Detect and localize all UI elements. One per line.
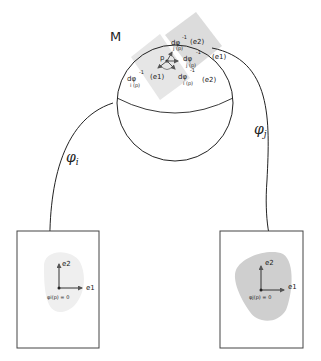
svg-text:j (p): j (p) bbox=[172, 45, 183, 52]
coordinate-charts-diagram: M p dφ -1 j (p) (e2) dφ -1 j (p) (e1) dφ… bbox=[0, 0, 321, 361]
left-origin-label: φi(p) = 0 bbox=[47, 294, 69, 301]
right-origin-label: φj(p) = 0 bbox=[249, 294, 271, 301]
right-chart: e2 e1 φj(p) = 0 bbox=[220, 231, 303, 348]
svg-text:(e1): (e1) bbox=[212, 53, 226, 61]
right-axis-e1: e1 bbox=[288, 283, 297, 291]
svg-text:-1: -1 bbox=[190, 67, 195, 73]
svg-text:i (p): i (p) bbox=[130, 82, 140, 89]
left-axis-e2: e2 bbox=[62, 260, 71, 268]
svg-text:(e2): (e2) bbox=[190, 38, 204, 46]
point-p-label: p bbox=[160, 54, 165, 62]
map-arrow-phi-j bbox=[212, 48, 276, 256]
svg-text:-1: -1 bbox=[139, 69, 144, 75]
left-axis-e1: e1 bbox=[86, 284, 95, 292]
manifold-label: M bbox=[110, 29, 121, 44]
left-chart: e2 e1 φi(p) = 0 bbox=[17, 231, 99, 348]
right-axis-e2: e2 bbox=[265, 259, 274, 267]
map-label-phi-i: φi bbox=[66, 149, 79, 167]
svg-text:(e2): (e2) bbox=[202, 76, 216, 84]
map-label-phi-j: φj bbox=[254, 121, 267, 139]
svg-text:(e1): (e1) bbox=[150, 73, 164, 81]
svg-text:i (p): i (p) bbox=[183, 80, 193, 87]
svg-text:-1: -1 bbox=[182, 34, 187, 40]
svg-text:-1: -1 bbox=[196, 49, 201, 55]
